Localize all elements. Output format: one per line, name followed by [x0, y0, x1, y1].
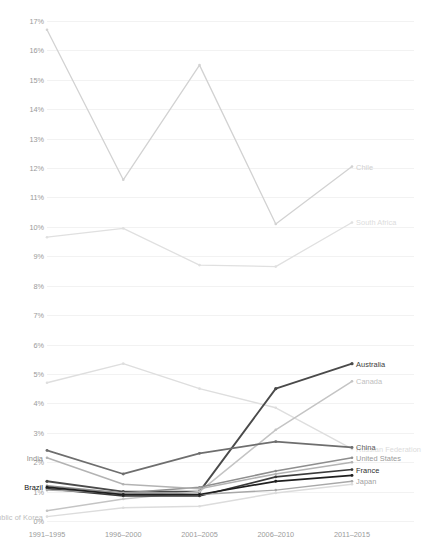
data-point — [274, 387, 277, 390]
data-point — [274, 265, 277, 268]
data-point — [351, 483, 354, 486]
chart-root: Share of country's patents 0%1%2%3%4%5%6… — [0, 0, 423, 552]
data-point — [122, 227, 125, 230]
data-point — [122, 493, 125, 496]
data-point — [198, 452, 201, 455]
data-point — [122, 506, 125, 509]
series-chile — [46, 29, 354, 226]
data-point — [274, 473, 277, 476]
data-point — [46, 489, 49, 492]
data-point — [198, 64, 201, 67]
series-south-africa — [46, 221, 354, 268]
data-point — [45, 480, 48, 483]
data-point — [274, 492, 277, 495]
series-label-france: France — [356, 465, 379, 474]
series-russian-federation — [46, 362, 354, 450]
series-label-brazil: Brazil — [24, 483, 43, 492]
series-china — [46, 440, 354, 475]
series-line — [47, 222, 352, 266]
data-point — [122, 472, 125, 475]
data-point — [351, 456, 354, 459]
data-point — [46, 509, 49, 512]
data-point — [351, 461, 354, 464]
series-label-india: India — [27, 453, 43, 462]
series-line — [47, 364, 352, 492]
data-point — [274, 406, 277, 409]
data-point — [122, 362, 125, 365]
data-point — [351, 474, 354, 477]
series-line — [47, 30, 352, 224]
data-point — [351, 165, 354, 168]
series-label-chile: Chile — [356, 162, 373, 171]
series-label-japan: Japan — [356, 477, 376, 486]
data-point — [46, 236, 49, 239]
data-point — [198, 487, 201, 490]
data-point — [46, 515, 49, 518]
data-point — [350, 362, 353, 365]
data-point — [198, 505, 201, 508]
series-label-australia: Australia — [356, 359, 385, 368]
data-point — [274, 440, 277, 443]
data-point — [274, 223, 277, 226]
series-label-south-africa: South Africa — [356, 218, 396, 227]
series-label-united-states: United States — [356, 453, 401, 462]
data-point — [274, 476, 277, 479]
data-point — [274, 489, 277, 492]
data-point — [351, 446, 354, 449]
data-point — [274, 480, 277, 483]
data-point — [46, 381, 49, 384]
data-point — [46, 29, 49, 32]
series-label-canada: Canada — [356, 377, 382, 386]
data-point — [46, 486, 49, 489]
data-point — [351, 380, 354, 383]
data-point — [46, 456, 49, 459]
series-line — [47, 364, 352, 449]
data-point — [351, 221, 354, 224]
data-point — [351, 468, 354, 471]
data-point — [46, 449, 49, 452]
series-label-china: China — [356, 443, 376, 452]
series-label-republic-of-korea: Republic of Korea — [0, 512, 43, 521]
data-point — [274, 429, 277, 432]
data-point — [198, 490, 201, 493]
data-point — [351, 480, 354, 483]
data-point — [122, 179, 125, 182]
data-point — [274, 470, 277, 473]
data-point — [198, 264, 201, 267]
data-point — [198, 493, 201, 496]
data-point — [122, 483, 125, 486]
data-point — [198, 387, 201, 390]
data-point — [122, 498, 125, 501]
